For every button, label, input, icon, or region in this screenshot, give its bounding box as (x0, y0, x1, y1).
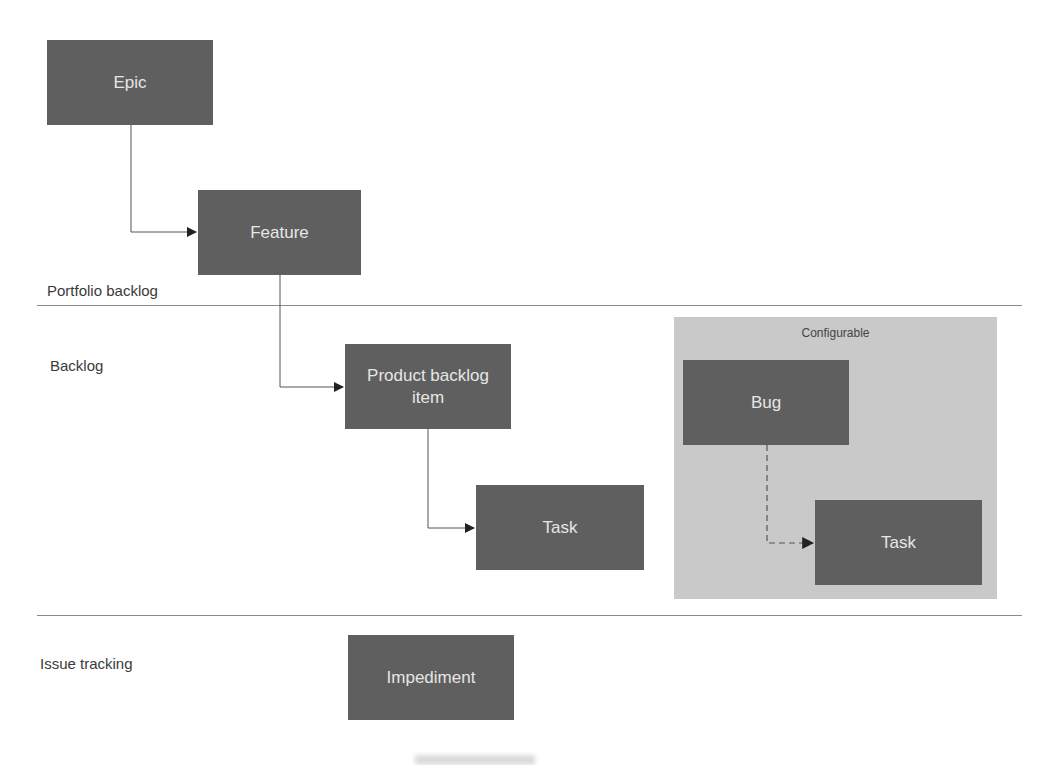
node-impediment: Impediment (348, 635, 514, 720)
node-product-backlog-item: Product backlog item (345, 344, 511, 429)
lane-divider (37, 615, 1022, 616)
node-bug-task: Task (815, 500, 982, 585)
group-title: Configurable (674, 326, 997, 340)
figure-caption-cropped (415, 755, 535, 765)
node-epic: Epic (47, 40, 213, 125)
node-feature: Feature (198, 190, 361, 275)
lane-divider (37, 305, 1022, 306)
node-task: Task (476, 485, 644, 570)
lane-label-issue-tracking: Issue tracking (40, 655, 133, 672)
lane-label-portfolio-backlog: Portfolio backlog (47, 282, 158, 299)
node-bug: Bug (683, 360, 849, 445)
lane-label-backlog: Backlog (50, 357, 103, 374)
